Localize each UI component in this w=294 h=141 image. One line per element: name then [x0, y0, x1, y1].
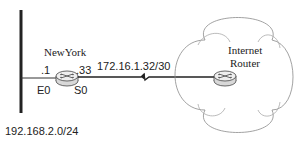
- s0-interface-label: S0: [74, 85, 87, 96]
- network-diagram: NewYork .1 .33 E0 S0 172.16.1.32/30 Inte…: [0, 0, 294, 141]
- router-name-label: NewYork: [44, 47, 86, 58]
- cloud-label-line2: Router: [230, 58, 260, 69]
- s0-address-label: .33: [76, 65, 91, 76]
- router-icon-internet: [214, 71, 236, 86]
- e0-interface-label: E0: [37, 85, 50, 96]
- serial-network-label: 172.16.1.32/30: [97, 61, 170, 72]
- e0-address-label: .1: [41, 65, 50, 76]
- serial-link: [78, 73, 214, 80]
- lan-network-label: 192.168.2.0/24: [5, 126, 78, 137]
- cloud-label-line1: Internet: [228, 45, 262, 56]
